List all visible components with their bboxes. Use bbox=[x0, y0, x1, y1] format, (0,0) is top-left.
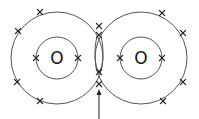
electron-markers bbox=[14, 9, 185, 103]
left-oxygen-atom: O bbox=[11, 12, 103, 104]
left-atom-symbol: O bbox=[50, 48, 63, 68]
outer-electron-cross-icon bbox=[160, 98, 165, 103]
shared-electron-cross-icon bbox=[96, 23, 101, 28]
right-oxygen-atom: O bbox=[95, 12, 187, 104]
outer-electron-cross-icon bbox=[180, 79, 185, 84]
right-atom-symbol: O bbox=[134, 48, 147, 68]
outer-electron-cross-icon bbox=[180, 30, 185, 35]
outer-electron-cross-icon bbox=[37, 9, 42, 14]
shared-electron-cross-icon bbox=[96, 81, 101, 86]
o2-bonding-diagram: O O bbox=[0, 0, 199, 119]
bond-arrow-icon bbox=[97, 89, 102, 119]
outer-electron-cross-icon bbox=[159, 10, 164, 15]
